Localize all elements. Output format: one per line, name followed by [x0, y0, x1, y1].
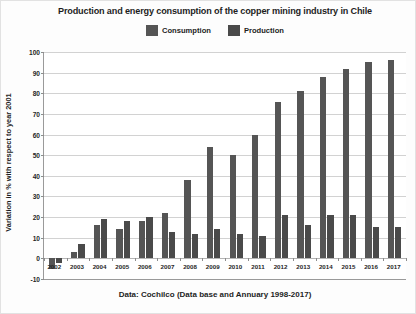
bar-consumption-2010 — [230, 155, 236, 258]
bar-production-2006 — [146, 217, 152, 258]
bar-production-2012 — [282, 215, 288, 258]
x-tick-mark — [248, 258, 249, 261]
bar-group — [361, 52, 384, 279]
y-axis-title: Variation in % with respect to year 2001 — [1, 60, 15, 265]
bar-production-2003 — [78, 244, 84, 258]
x-tick-label-2012: 2012 — [274, 263, 288, 270]
chart-title: Production and energy consumption of the… — [30, 6, 400, 16]
y-tick-label: 60 — [33, 131, 40, 138]
x-tick-mark — [89, 258, 90, 261]
x-tick-mark — [293, 258, 294, 261]
chart-legend: Consumption Production — [30, 25, 400, 36]
bar-consumption-2014 — [320, 77, 326, 259]
bar-consumption-2011 — [252, 135, 258, 259]
x-tick-mark — [225, 258, 226, 261]
y-tick-label: 100 — [29, 49, 40, 56]
y-tick-label: 10 — [33, 234, 40, 241]
x-tick-label-2015: 2015 — [342, 263, 356, 270]
x-tick-label-2007: 2007 — [161, 263, 175, 270]
x-tick-mark — [338, 258, 339, 261]
x-tick-mark — [135, 258, 136, 261]
chart-caption: Data: Cochilco (Data base and Annuary 19… — [30, 290, 400, 299]
bar-consumption-2013 — [297, 91, 303, 258]
legend-label-production: Production — [244, 26, 284, 35]
bar-group — [44, 52, 67, 279]
bar-production-2016 — [373, 227, 379, 258]
y-tick-label: 50 — [33, 152, 40, 159]
x-tick-label-2006: 2006 — [138, 263, 152, 270]
y-tick-label: 80 — [33, 90, 40, 97]
legend-entry-production: Production — [228, 25, 284, 36]
x-tick-mark — [316, 258, 317, 261]
y-tick-label: 0 — [36, 255, 40, 262]
bars-layer — [44, 52, 406, 279]
bar-production-2004 — [101, 219, 107, 258]
legend-label-consumption: Consumption — [162, 26, 211, 35]
x-tick-label-2013: 2013 — [296, 263, 310, 270]
bar-production-2002 — [56, 258, 62, 262]
x-tick-label-2010: 2010 — [228, 263, 242, 270]
bar-production-2007 — [169, 232, 175, 259]
bar-consumption-2006 — [139, 221, 145, 258]
y-tick-label: 20 — [33, 214, 40, 221]
bar-group — [157, 52, 180, 279]
bar-group — [180, 52, 203, 279]
bar-production-2017 — [395, 227, 401, 258]
x-tick-mark — [157, 258, 158, 261]
x-tick-label-2004: 2004 — [93, 263, 107, 270]
bar-group — [248, 52, 271, 279]
bar-production-2010 — [237, 234, 243, 259]
bar-group — [89, 52, 112, 279]
bar-production-2013 — [305, 225, 311, 258]
y-tick-label: 40 — [33, 172, 40, 179]
bar-production-2014 — [327, 215, 333, 258]
bar-consumption-2008 — [184, 180, 190, 258]
bar-production-2008 — [192, 234, 198, 259]
bar-consumption-2003 — [71, 252, 77, 258]
bar-consumption-2012 — [275, 102, 281, 259]
x-tick-label-2011: 2011 — [251, 263, 264, 270]
x-tick-label-2003: 2003 — [70, 263, 84, 270]
y-axis-title-text: Variation in % with respect to year 2001 — [4, 93, 13, 231]
x-tick-mark — [361, 258, 362, 261]
x-tick-mark — [406, 258, 407, 261]
bar-consumption-2009 — [207, 147, 213, 258]
x-tick-mark — [383, 258, 384, 261]
x-tick-mark — [67, 258, 68, 261]
legend-swatch-production-icon — [228, 25, 240, 36]
legend-swatch-consumption-icon — [146, 25, 158, 36]
y-tick-label: -10 — [30, 276, 40, 283]
bar-production-2011 — [259, 236, 265, 259]
x-tick-label-2016: 2016 — [364, 263, 378, 270]
bar-group — [67, 52, 90, 279]
x-tick-mark — [44, 258, 45, 261]
bar-consumption-2007 — [162, 213, 168, 258]
y-tick-label: 90 — [33, 69, 40, 76]
bar-consumption-2016 — [365, 62, 371, 258]
bar-group — [338, 52, 361, 279]
x-tick-label-2008: 2008 — [183, 263, 197, 270]
x-tick-label-2005: 2005 — [115, 263, 129, 270]
x-tick-mark — [112, 258, 113, 261]
bar-production-2015 — [350, 215, 356, 258]
bar-group — [202, 52, 225, 279]
x-tick-label-2002: 2002 — [47, 263, 61, 270]
plot-area: 1009080706050403020100-10 — [43, 52, 406, 279]
bar-group — [293, 52, 316, 279]
bar-group — [383, 52, 406, 279]
gridline — [44, 279, 406, 280]
x-tick-mark — [180, 258, 181, 261]
x-tick-label-2014: 2014 — [319, 263, 333, 270]
x-tick-label-2017: 2017 — [387, 263, 401, 270]
y-tick-label: 70 — [33, 110, 40, 117]
bar-group — [316, 52, 339, 279]
bar-consumption-2017 — [388, 60, 394, 258]
legend-entry-consumption: Consumption — [146, 25, 211, 36]
plot-wrapper: 1009080706050403020100-10 20022003200420… — [43, 52, 405, 279]
bar-group — [112, 52, 135, 279]
x-tick-mark — [202, 258, 203, 261]
x-tick-label-2009: 2009 — [206, 263, 220, 270]
bar-consumption-2005 — [116, 229, 122, 258]
y-tick-mark — [41, 279, 44, 280]
